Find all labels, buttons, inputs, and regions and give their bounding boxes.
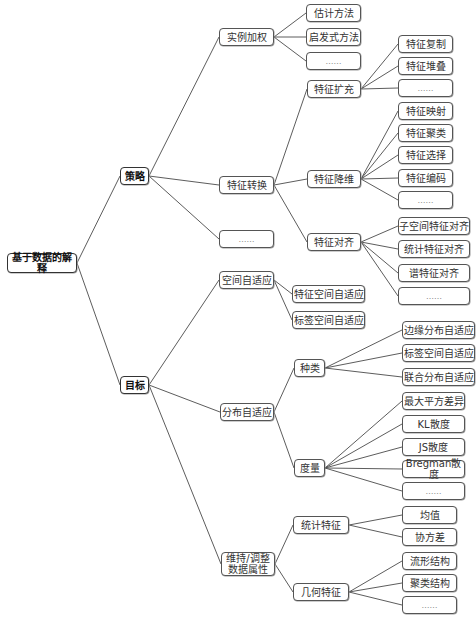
node-tjtz: 统计特征对齐 xyxy=(398,240,470,258)
node-label: …… xyxy=(326,56,342,67)
node-label: 特征扩充 xyxy=(314,84,354,95)
node-label: 聚类结构 xyxy=(410,578,450,589)
node-label: 空间自适应 xyxy=(222,275,272,286)
connector-tzdq-zkj xyxy=(361,226,398,242)
node-label: …… xyxy=(239,234,255,245)
node-tzzh: 特征转换 xyxy=(219,176,274,194)
node-tzkjzsy: 特征空间自适应 xyxy=(292,285,365,303)
node-label: …… xyxy=(426,486,442,497)
node-label: 度量 xyxy=(300,463,320,474)
connector-tzkc-tzdd xyxy=(361,66,398,89)
connector-tzkc-tzfz xyxy=(361,44,398,89)
node-tzjw: 特征降维 xyxy=(307,170,361,188)
connector-slqj-gjff xyxy=(274,13,306,37)
connector-wcsx-tjtz2 xyxy=(275,525,293,564)
connector-fbzsy-zl xyxy=(274,368,294,412)
node-label: 几何特征 xyxy=(301,587,341,598)
connector-tzkc-kc_more xyxy=(361,88,398,89)
node-label: 协方差 xyxy=(415,532,445,543)
connector-celue-cl_more xyxy=(149,176,219,239)
node-label: 基于数据的解释 xyxy=(8,252,76,274)
node-label: 实例加权 xyxy=(227,32,267,43)
node-lhfb: 联合分布自适应 xyxy=(402,368,475,386)
node-label: KL散度 xyxy=(417,419,449,430)
connector-dl-kl xyxy=(325,424,402,468)
node-jh_more: …… xyxy=(402,596,457,614)
node-fbzsy: 分布自适应 xyxy=(220,403,274,421)
node-label: 统计特征对齐 xyxy=(404,244,464,255)
connector-mubiao-fbzsy xyxy=(149,385,220,412)
node-jw_more: …… xyxy=(398,191,453,209)
node-dl: 度量 xyxy=(294,459,325,477)
connector-kjzsy-bqkjzsy xyxy=(274,280,292,320)
node-label: 标签空间自适应 xyxy=(404,348,474,359)
node-ptz: 谱特征对齐 xyxy=(398,264,470,282)
node-kl: KL散度 xyxy=(402,415,465,433)
connector-zl-bqkj2 xyxy=(325,353,402,368)
node-dl_more: …… xyxy=(402,482,465,500)
node-label: 估计方法 xyxy=(314,8,354,19)
node-tzfz: 特征复制 xyxy=(398,35,453,53)
connector-celue-slqj xyxy=(149,37,219,176)
connector-fbzsy-dl xyxy=(274,412,294,468)
node-label: 特征复制 xyxy=(406,39,446,50)
node-tzkc: 特征扩充 xyxy=(307,80,361,98)
node-label: 策略 xyxy=(125,171,145,182)
node-kc_more: …… xyxy=(398,79,453,97)
connector-mubiao-wcsx xyxy=(149,385,221,564)
node-xfc: 协方差 xyxy=(402,528,457,546)
node-kjzsy: 空间自适应 xyxy=(219,271,274,289)
node-label: 特征降维 xyxy=(314,174,354,185)
node-tzxz: 特征选择 xyxy=(398,146,453,164)
node-label: 特征映射 xyxy=(406,106,446,117)
node-label: …… xyxy=(418,83,434,94)
connector-zl-byfb xyxy=(325,330,402,368)
node-zkj: 子空间特征对齐 xyxy=(398,217,470,235)
node-label: 目标 xyxy=(125,380,145,391)
node-label: …… xyxy=(422,600,438,611)
connector-tzdq-tjtz xyxy=(361,242,398,249)
node-gjff: 估计方法 xyxy=(306,4,361,22)
node-label: Bregman散度 xyxy=(403,458,464,480)
node-tzjl: 特征聚类 xyxy=(398,124,453,142)
connector-mubiao-kjzsy xyxy=(149,280,219,385)
node-label: 分布自适应 xyxy=(222,407,272,418)
node-wcsx: 维持/调整 数据属性 xyxy=(221,552,275,576)
connector-slqj-sl_more xyxy=(274,37,306,61)
node-label: 特征转换 xyxy=(227,180,267,191)
node-tjtz2: 统计特征 xyxy=(293,516,349,534)
node-jhtz: 几何特征 xyxy=(293,583,349,601)
node-label: JS散度 xyxy=(419,442,448,453)
node-zl: 种类 xyxy=(294,359,325,377)
connector-root-celue xyxy=(77,176,120,263)
node-root: 基于数据的解释 xyxy=(7,253,77,273)
connector-jhtz-jh_more xyxy=(349,592,402,605)
connector-dl-breg xyxy=(325,468,402,469)
node-tzys: 特征映射 xyxy=(398,102,453,120)
node-label: 种类 xyxy=(300,363,320,374)
node-zdpf: 最大平方差异 xyxy=(402,392,465,410)
node-jz: 均值 xyxy=(402,506,457,524)
connector-celue-tzzh xyxy=(149,176,219,185)
connector-tzzh-tzjw xyxy=(274,179,307,185)
connector-tjtz2-xfc xyxy=(349,525,402,537)
node-label: 联合分布自适应 xyxy=(404,372,474,383)
node-qfsff: 启发式方法 xyxy=(306,28,361,46)
node-slqj: 实例加权 xyxy=(219,28,274,46)
connector-tjtz2-jz xyxy=(349,515,402,525)
node-label: 边缘分布自适应 xyxy=(404,325,474,336)
node-label: 特征堆叠 xyxy=(406,61,446,72)
connector-tzjw-tzjl xyxy=(361,133,398,179)
connector-tzjw-tzxz xyxy=(361,155,398,179)
connector-tzjw-tzys xyxy=(361,111,398,179)
node-byfb: 边缘分布自适应 xyxy=(402,321,475,339)
node-label: 特征编码 xyxy=(406,173,446,184)
node-label: 谱特征对齐 xyxy=(409,268,459,279)
connector-tzjw-tzbm xyxy=(361,178,398,179)
node-bqkj2: 标签空间自适应 xyxy=(402,344,475,362)
node-label: 启发式方法 xyxy=(309,32,359,43)
node-label: 最大平方差异 xyxy=(404,396,464,407)
node-sl_more: …… xyxy=(306,52,361,70)
node-label: 维持/调整 数据属性 xyxy=(226,553,269,575)
node-label: 标签空间自适应 xyxy=(294,315,364,326)
